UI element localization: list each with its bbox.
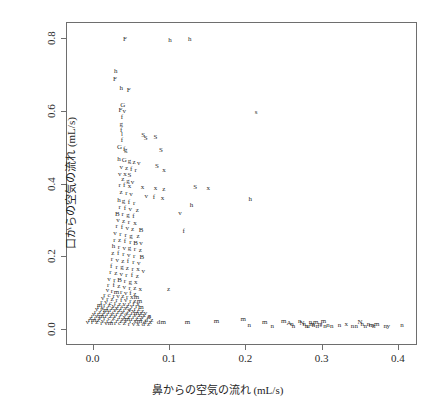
x-axis-tick-label: 0.0 xyxy=(86,352,100,364)
plot-area: FhhhFhFGFvsfgflSSSfGfgShGgzvSxvzfrvxSzgv… xyxy=(67,23,416,344)
chart-page: 0.00.20.40.60.8 0.00.10.20.30.4 FhhhFhFG… xyxy=(0,0,435,411)
y-axis-tick-label: 0.0 xyxy=(45,322,57,336)
data-point: y xyxy=(386,323,390,330)
data-point: c xyxy=(118,320,121,327)
x-axis-tick xyxy=(245,345,246,350)
data-point: G xyxy=(117,143,122,150)
data-point: r xyxy=(100,319,102,326)
data-point: x xyxy=(206,185,210,192)
data-point: x xyxy=(141,184,145,191)
data-point: S xyxy=(159,147,163,154)
data-point: z xyxy=(123,320,126,327)
data-point: r xyxy=(134,166,136,173)
x-axis-tick-label: 0.4 xyxy=(391,352,405,364)
data-point: v xyxy=(145,192,149,199)
data-point: r xyxy=(91,319,93,326)
data-point: h xyxy=(248,196,252,203)
data-point: S xyxy=(193,184,197,191)
data-point: r xyxy=(114,320,116,327)
data-point: x xyxy=(161,194,165,201)
data-point: m xyxy=(185,318,190,325)
data-point: x xyxy=(128,182,132,189)
data-point: S xyxy=(144,135,148,142)
data-point: r xyxy=(125,189,127,196)
data-point: z xyxy=(136,206,139,213)
data-point: n xyxy=(338,322,342,329)
data-point: S xyxy=(154,133,158,140)
data-point: h xyxy=(117,156,121,163)
data-point: x xyxy=(139,285,143,292)
data-point: s xyxy=(255,108,258,115)
data-point: z xyxy=(167,286,170,293)
data-point: n xyxy=(271,322,275,329)
data-point: x xyxy=(345,320,349,327)
data-point: m xyxy=(214,318,219,325)
data-point: m xyxy=(262,319,267,326)
x-axis-tick-label: 0.3 xyxy=(315,352,329,364)
data-point: v xyxy=(86,319,90,326)
data-point: F xyxy=(123,36,127,43)
x-axis-tick-label: 0.2 xyxy=(238,352,252,364)
x-axis-tick xyxy=(398,345,399,350)
data-point: z xyxy=(162,186,165,193)
data-point: h xyxy=(168,36,172,43)
data-point: h xyxy=(190,202,194,209)
y-axis-title: 口からの空気の流れ (mL/s) xyxy=(62,117,78,249)
data-point: m xyxy=(374,320,379,327)
data-point: h xyxy=(114,67,118,74)
data-point: z xyxy=(147,320,150,327)
data-point: F xyxy=(127,87,131,94)
data-point: f xyxy=(153,193,155,200)
data-point: d xyxy=(142,320,146,327)
data-point: r xyxy=(128,320,130,327)
data-point: g xyxy=(124,146,128,153)
data-point: n xyxy=(292,323,296,330)
data-point: z xyxy=(120,188,123,195)
x-axis-tick xyxy=(93,345,94,350)
data-point: x xyxy=(162,166,166,173)
x-axis-title: 鼻からの空気の流れ (mL/s) xyxy=(0,381,435,397)
data-point: m xyxy=(241,315,246,322)
data-point: v xyxy=(129,190,133,197)
data-point: n xyxy=(330,322,334,329)
data-point: v xyxy=(132,320,136,327)
data-point: n xyxy=(248,322,252,329)
data-point: x xyxy=(154,185,158,192)
data-point: n xyxy=(400,321,404,328)
y-axis-tick-label: 0.8 xyxy=(45,31,57,45)
data-point: h xyxy=(188,36,192,43)
data-point: v xyxy=(137,159,141,166)
data-point: z xyxy=(133,159,136,166)
data-point: v xyxy=(178,209,182,216)
data-point: m xyxy=(108,319,113,326)
data-point: h xyxy=(119,84,123,91)
data-point: f xyxy=(183,227,185,234)
y-axis-tick-label: 0.6 xyxy=(45,104,57,118)
x-axis-tick xyxy=(169,345,170,350)
y-axis-tick-label: 0.2 xyxy=(45,249,57,263)
x-axis-tick-label: 0.1 xyxy=(162,352,176,364)
data-point: m xyxy=(160,319,165,326)
data-point: z xyxy=(95,319,98,326)
data-point: S xyxy=(155,162,159,169)
data-point: F xyxy=(113,76,117,83)
plot-frame: FhhhFhFGFvsfgflSSSfGfgShGgzvSxvzfrvxSzgv… xyxy=(66,22,417,345)
data-point: v xyxy=(142,267,146,274)
x-axis-tick xyxy=(322,345,323,350)
data-point: x xyxy=(136,320,140,327)
y-axis-tick-label: 0.4 xyxy=(45,177,57,191)
